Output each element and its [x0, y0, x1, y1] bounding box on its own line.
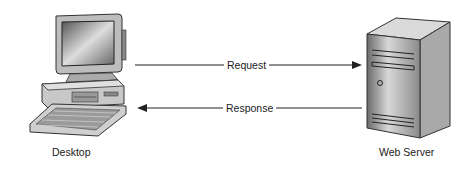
server-tower-icon	[367, 18, 450, 138]
response-label: Response	[223, 102, 276, 114]
desktop-computer-icon	[30, 14, 126, 136]
desktop-label: Desktop	[49, 146, 94, 158]
request-label: Request	[224, 59, 269, 71]
web-server-label: Web Server	[376, 146, 437, 158]
